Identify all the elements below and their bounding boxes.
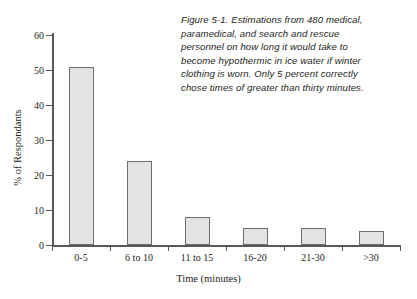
x-axis-tick-label: 21-30	[301, 252, 324, 263]
figure-container: Figure 5-1. Estimations from 480 medical…	[0, 0, 417, 299]
x-axis-tick-label: 16-20	[243, 252, 266, 263]
x-axis-tick	[52, 245, 53, 251]
y-axis-tick-label: 20	[4, 170, 44, 181]
y-axis-tick-label: 60	[4, 30, 44, 41]
x-axis-title: Time (minutes)	[0, 273, 417, 284]
x-axis-tick-label: 6 to 10	[125, 252, 153, 263]
y-axis-labels: 0102030405060	[0, 0, 44, 299]
x-axis-tick	[110, 245, 111, 251]
x-axis-tick	[284, 245, 285, 251]
y-axis-tick-label: 40	[4, 100, 44, 111]
y-axis-tick-label: 30	[4, 135, 44, 146]
x-axis-tick-label: >30	[363, 252, 379, 263]
bar	[359, 231, 384, 245]
bar	[69, 67, 94, 246]
y-axis-tick-label: 0	[4, 240, 44, 251]
y-axis-tick	[46, 105, 52, 106]
y-axis-tick	[46, 140, 52, 141]
bar	[301, 228, 326, 246]
bar	[243, 228, 268, 246]
x-axis-tick	[168, 245, 169, 251]
x-axis-tick-label: 0-5	[74, 252, 87, 263]
y-axis-tick	[46, 175, 52, 176]
x-axis-tick	[226, 245, 227, 251]
y-axis-tick	[46, 35, 52, 36]
bar	[127, 161, 152, 245]
y-axis-tick	[46, 70, 52, 71]
y-axis-tick-label: 10	[4, 205, 44, 216]
x-axis-tick-label: 11 to 15	[181, 252, 213, 263]
bar	[185, 217, 210, 245]
caption-line: Figure 5-1. Estimations from 480 medical…	[181, 13, 413, 27]
x-axis-tick	[400, 245, 401, 251]
plot-area	[52, 35, 400, 245]
x-axis-tick	[342, 245, 343, 251]
y-axis-tick-label: 50	[4, 65, 44, 76]
y-axis-tick	[46, 210, 52, 211]
